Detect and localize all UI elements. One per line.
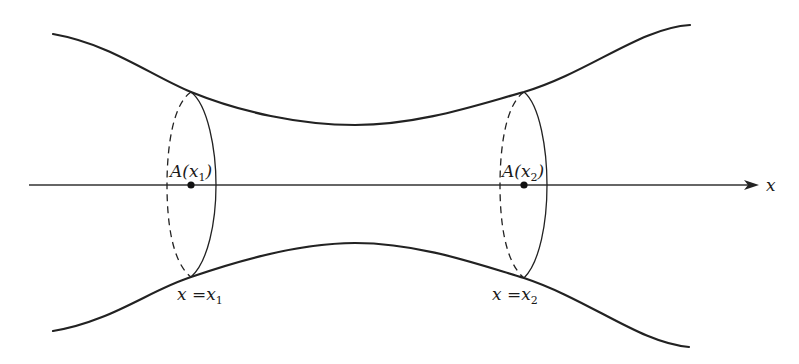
cross-section-2: A(x2) x =x2 — [492, 92, 547, 307]
cross-section-1-center-point — [187, 181, 194, 188]
solid-of-revolution-diagram: x A(x1) x =x1 A(x2) x =x2 — [0, 0, 799, 364]
upper-boundary-curve — [53, 25, 690, 125]
cross-section-2-area-label: A(x2) — [500, 161, 544, 184]
cross-section-2-center-point — [520, 181, 527, 188]
lower-boundary-curve — [53, 243, 689, 347]
x-axis-label: x — [766, 175, 776, 195]
cross-section-2-position-label: x =x2 — [492, 284, 538, 307]
cross-section-1-area-label: A(x1) — [168, 161, 212, 184]
cross-section-1-position-label: x =x1 — [177, 284, 223, 307]
